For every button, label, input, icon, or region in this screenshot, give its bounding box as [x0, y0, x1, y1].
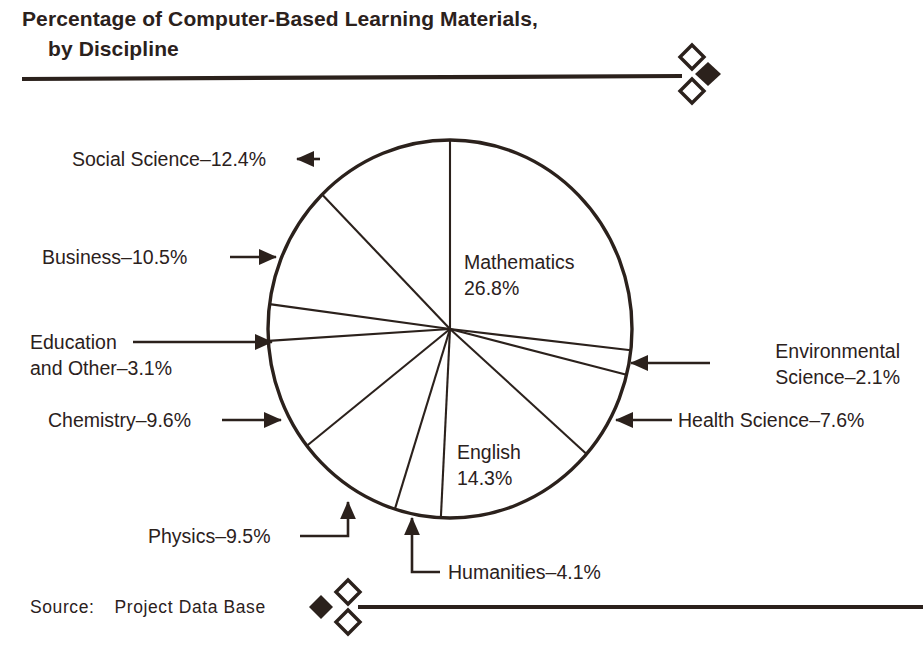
source-label: Source:: [30, 597, 95, 617]
callout-social-science: Social Science–12.4%: [72, 146, 266, 172]
leader-humanities: [412, 518, 440, 572]
callout-humanities: Humanities–4.1%: [448, 559, 601, 585]
slice-label-english-value: 14.3%: [457, 465, 512, 491]
diamond-hollow-icon: [336, 580, 360, 604]
source-line: Source:Project Data Base: [30, 597, 266, 618]
top-rule-ornament: [22, 45, 721, 103]
callout-education-line-1: Education: [30, 329, 117, 355]
callout-business: Business–10.5%: [42, 244, 187, 270]
diamond-hollow-icon: [680, 45, 704, 69]
pie-divider-chemistry: [307, 329, 450, 446]
pie-divider-social-science: [322, 195, 450, 329]
pie-divider-business: [270, 304, 450, 329]
diamond-filled-icon: [695, 62, 721, 86]
callout-health-science: Health Science–7.6%: [678, 407, 864, 433]
pie-slice-dividers: [268, 140, 630, 518]
source-value: Project Data Base: [115, 597, 266, 617]
slice-label-english-name: English: [457, 439, 521, 465]
slice-label-mathematics-name: Mathematics: [464, 249, 575, 275]
bottom-rule-ornament: [309, 580, 923, 634]
callout-physics: Physics–9.5%: [148, 523, 270, 549]
pie-chart: [268, 140, 632, 518]
diamond-hollow-icon: [336, 610, 360, 634]
diamond-hollow-icon: [680, 79, 704, 103]
diamond-filled-icon: [309, 595, 333, 619]
callout-environmental-science-line-1: Environmental: [600, 338, 900, 364]
callout-environmental-science-line-2: Science–2.1%: [600, 364, 900, 390]
pie-divider-education-and-other: [268, 329, 450, 341]
callout-chemistry: Chemistry–9.6%: [48, 407, 191, 433]
callout-education-line-2: and Other–3.1%: [30, 355, 172, 381]
slice-label-mathematics-value: 26.8%: [464, 275, 519, 301]
leader-physics: [300, 502, 348, 536]
